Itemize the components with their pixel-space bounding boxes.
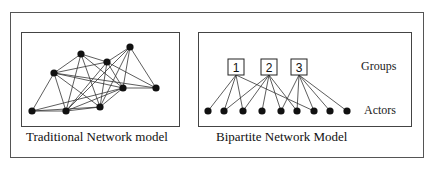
network-node — [96, 103, 103, 110]
bipartite-network-caption: Bipartite Network Model — [216, 129, 348, 144]
network-node — [126, 43, 133, 50]
bipartite-groups: 123 — [228, 59, 307, 75]
network-node — [152, 84, 159, 91]
group-node: 3 — [291, 59, 307, 75]
actor-node — [239, 107, 246, 114]
actor-node — [310, 107, 317, 114]
network-node — [119, 84, 126, 91]
group-number: 1 — [233, 61, 240, 75]
actors-label: Actors — [364, 103, 396, 117]
actor-node — [258, 107, 265, 114]
traditional-network-caption: Traditional Network model — [26, 129, 168, 144]
groups-label: Groups — [361, 59, 397, 73]
network-node — [103, 58, 110, 65]
actor-node — [220, 107, 227, 114]
actor-node — [277, 107, 284, 114]
network-node — [62, 107, 69, 114]
group-number: 3 — [296, 61, 303, 75]
network-node — [50, 69, 57, 76]
network-node — [77, 50, 84, 57]
group-node: 1 — [228, 59, 244, 75]
actor-node — [326, 107, 333, 114]
network-models-figure: Traditional Network model 123 Groups Act… — [0, 0, 432, 175]
group-number: 2 — [266, 61, 273, 75]
actor-node — [204, 107, 211, 114]
group-node: 2 — [261, 59, 277, 75]
actor-node — [343, 107, 350, 114]
network-node — [28, 107, 35, 114]
actor-node — [293, 107, 300, 114]
